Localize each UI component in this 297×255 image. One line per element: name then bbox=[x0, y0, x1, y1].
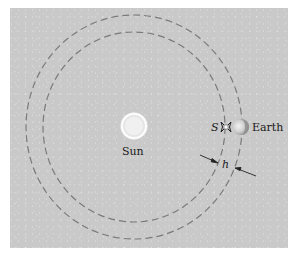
sun-label: Sun bbox=[122, 146, 144, 157]
satellite-icon bbox=[221, 122, 231, 132]
gap-label: h bbox=[222, 159, 229, 170]
sun-icon bbox=[121, 113, 148, 140]
earth-icon bbox=[233, 119, 249, 135]
satellite-label: S bbox=[211, 122, 219, 133]
earth-label: Earth bbox=[252, 122, 283, 133]
